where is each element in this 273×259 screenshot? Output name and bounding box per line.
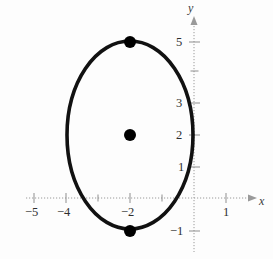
y-tick-label-2: 2 (176, 129, 182, 142)
point-vertex-top (124, 36, 136, 48)
x-axis-arrow-icon (248, 195, 257, 202)
y-axis-arrow-icon (191, 16, 198, 25)
point-center (124, 129, 136, 141)
y-tick-label-1: 1 (178, 161, 184, 174)
ellipse-figure: x y −5 −4 −2 1 5 3 2 1 −1 (0, 0, 273, 259)
x-tick-label-1: 1 (223, 206, 229, 219)
plot-canvas (0, 0, 273, 259)
x-axis (26, 195, 257, 202)
x-tick-label--4: −4 (57, 206, 70, 219)
point-vertex-bottom (124, 225, 136, 237)
y-tick-label-5: 5 (176, 36, 182, 49)
x-tick-label--5: −5 (25, 206, 38, 219)
y-tick-label-3: 3 (176, 97, 182, 110)
y-tick-label--1: −1 (170, 225, 183, 238)
x-tick-label--2: −2 (121, 206, 134, 219)
x-axis-label: x (259, 195, 264, 207)
y-axis-label: y (188, 2, 193, 14)
